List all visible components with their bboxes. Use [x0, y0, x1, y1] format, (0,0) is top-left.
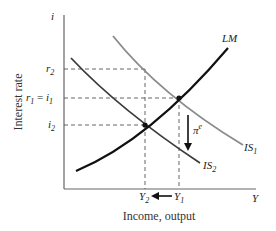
is2-label: IS2 — [202, 159, 216, 174]
svg-text:πe: πe — [193, 122, 203, 136]
is1-label: IS1 — [243, 141, 257, 156]
y2-tick-label: Y2 — [139, 190, 149, 205]
svg-text:IS1: IS1 — [243, 141, 257, 156]
svg-text:i2: i2 — [48, 118, 55, 133]
equilibrium-point-1 — [176, 95, 181, 100]
y-axis-letter: i — [51, 10, 54, 22]
x-axis-letter: Y — [252, 192, 260, 204]
lm-curve — [76, 48, 228, 171]
svg-text:IS2: IS2 — [202, 159, 216, 174]
svg-text:Y1: Y1 — [174, 190, 184, 205]
svg-text:r2: r2 — [46, 62, 54, 77]
svg-text:r1 = i1: r1 = i1 — [26, 91, 53, 106]
x-axis-title: Income, output — [123, 209, 196, 223]
i2-tick-label: i2 — [48, 118, 55, 133]
r2-tick-label: r2 — [46, 62, 54, 77]
y1-tick-label: Y1 — [174, 190, 184, 205]
is2-curve — [71, 58, 200, 163]
r1-i1-tick-label: r1 = i1 — [26, 91, 53, 106]
equilibrium-point-2 — [142, 122, 147, 127]
expected-inflation-label: πe — [193, 122, 203, 136]
svg-text:Y2: Y2 — [139, 190, 149, 205]
lm-label: LM — [221, 32, 238, 44]
y-axis-title: Interest rate — [11, 74, 25, 131]
islm-diagram: i Y Interest rate Income, output LM IS1 … — [0, 0, 276, 231]
